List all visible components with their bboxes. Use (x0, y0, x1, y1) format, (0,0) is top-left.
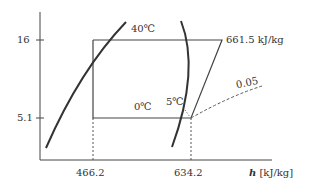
superheat-leader (185, 110, 190, 117)
y-tick-label: 16 (17, 35, 30, 45)
y-tick-label: 5.1 (17, 113, 33, 123)
x-tick-label: 634.2 (174, 168, 203, 178)
x-axis-unit: [kJ/kg] (259, 167, 293, 178)
enthalpy-discharge-label: 661.5 kJ/kg (226, 35, 284, 45)
ph-diagram: 16 5.1 466.2 634.2 h [kJ/kg] 40℃ 661.5 k… (0, 0, 310, 192)
temp-evap-label: 0℃ (134, 102, 152, 112)
x-tick-label: 466.2 (76, 168, 105, 178)
refrigeration-cycle (93, 40, 222, 118)
diagram-graphics (0, 0, 310, 192)
saturated-liquid-curve (46, 22, 126, 148)
x-axis-symbol: h (249, 167, 256, 178)
x-axis-label: h [kJ/kg] (249, 168, 293, 178)
temp-high-label: 40℃ (131, 24, 155, 34)
temp-superheat-label: 5℃ (166, 97, 184, 107)
